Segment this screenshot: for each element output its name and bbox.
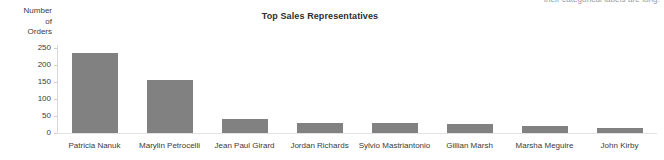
y-axis-title-line-1: Number bbox=[0, 6, 52, 17]
bar[interactable] bbox=[297, 123, 343, 133]
x-axis-labels: Patricia NanukMarylin PetrocelliJean Pau… bbox=[57, 141, 657, 155]
y-tick-label: 150 bbox=[21, 78, 51, 86]
y-axis-title: Number of Orders bbox=[0, 6, 52, 38]
bar-slot bbox=[222, 48, 268, 133]
y-axis-title-line-3: Orders bbox=[0, 27, 52, 38]
bar-slot bbox=[372, 48, 418, 133]
y-tick-label: 250 bbox=[21, 44, 51, 52]
chart-title-text: Top Sales Representatives bbox=[262, 11, 378, 21]
bar[interactable] bbox=[597, 128, 643, 133]
x-tick-label: John Kirby bbox=[575, 141, 664, 151]
bar[interactable] bbox=[72, 53, 118, 133]
y-tick-mark bbox=[54, 48, 57, 49]
clipped-top-note: their categorical labels are long. bbox=[544, 0, 660, 4]
y-tick-label: 100 bbox=[21, 95, 51, 103]
bar-slot bbox=[522, 48, 568, 133]
y-tick-label: 200 bbox=[21, 61, 51, 69]
bars-group bbox=[57, 48, 657, 133]
plot-area: 050100150200250 bbox=[57, 48, 657, 133]
x-axis-line bbox=[57, 133, 657, 134]
bar-slot bbox=[147, 48, 193, 133]
y-axis-title-line-2: of bbox=[0, 17, 52, 28]
y-tick-label: 0 bbox=[21, 129, 51, 137]
bar-slot bbox=[447, 48, 493, 133]
bar-slot bbox=[297, 48, 343, 133]
y-tick-mark bbox=[54, 65, 57, 66]
bar[interactable] bbox=[522, 126, 568, 133]
bar-slot bbox=[597, 48, 643, 133]
y-tick-mark bbox=[54, 116, 57, 117]
y-tick-mark bbox=[54, 133, 57, 134]
chart-title: Top Sales Representatives bbox=[0, 11, 664, 21]
bar[interactable] bbox=[447, 124, 493, 133]
y-tick-label: 50 bbox=[21, 112, 51, 120]
bar[interactable] bbox=[147, 80, 193, 133]
bar-slot bbox=[72, 48, 118, 133]
bar-chart: their categorical labels are long. Top S… bbox=[0, 0, 664, 160]
bar[interactable] bbox=[372, 123, 418, 133]
y-tick-mark bbox=[54, 82, 57, 83]
y-tick-mark bbox=[54, 99, 57, 100]
bar[interactable] bbox=[222, 119, 268, 133]
